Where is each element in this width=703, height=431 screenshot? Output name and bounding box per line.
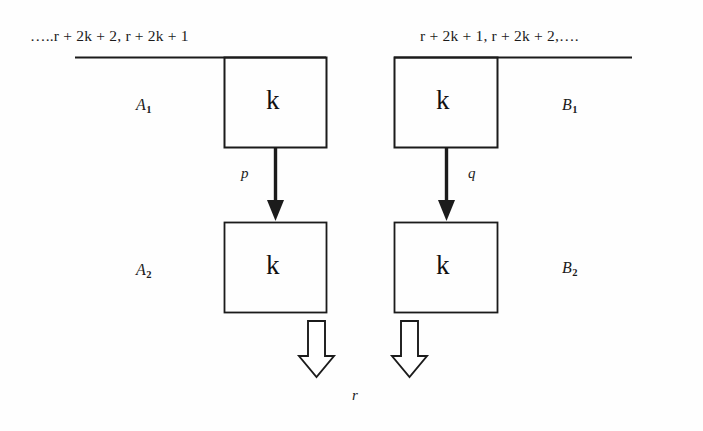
region-sub-a2: 2 xyxy=(146,269,152,280)
region-label-a2: A2 xyxy=(136,262,152,280)
region-letter-a1: A xyxy=(136,96,146,113)
transition-label-q: q xyxy=(468,166,476,181)
sequence-label-left: …..r + 2k + 2, r + 2k + 1 xyxy=(30,28,189,44)
diagram-canvas: …..r + 2k + 2, r + 2k + 1 r + 2k + 1, r … xyxy=(0,0,703,431)
region-label-a1: A1 xyxy=(136,97,152,115)
region-letter-b1: B xyxy=(562,96,572,113)
hollow-down-arrow-icon-right xyxy=(392,321,427,377)
box-label-bottom-right: k xyxy=(436,252,450,279)
box-label-bottom-left: k xyxy=(266,252,280,279)
hollow-down-arrow-icon-left xyxy=(299,321,334,377)
region-label-b2: B2 xyxy=(562,260,578,278)
region-label-b1: B1 xyxy=(562,97,578,115)
down-arrow-icon-q xyxy=(438,147,455,221)
transition-label-p: p xyxy=(241,166,249,181)
region-letter-a2: A xyxy=(136,261,146,278)
box-label-top-left: k xyxy=(266,87,280,114)
sequence-label-right: r + 2k + 1, r + 2k + 2,…. xyxy=(420,28,579,44)
region-sub-a1: 1 xyxy=(146,104,152,115)
region-letter-b2: B xyxy=(562,259,572,276)
region-sub-b1: 1 xyxy=(572,104,578,115)
down-arrow-icon-p xyxy=(267,147,284,221)
region-sub-b2: 2 xyxy=(572,267,578,278)
box-label-top-right: k xyxy=(436,87,450,114)
diagram-vector-layer xyxy=(0,0,703,431)
result-label-r: r xyxy=(352,388,358,403)
